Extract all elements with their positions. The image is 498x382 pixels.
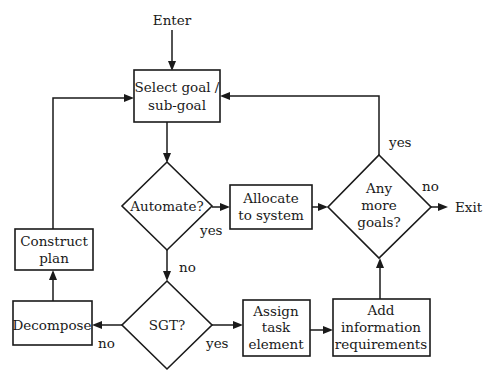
edge-label-goals-no: no — [422, 178, 439, 194]
node-label: Automate? — [129, 198, 204, 214]
node-label: to system — [238, 207, 304, 223]
node-label: Any — [365, 180, 392, 196]
edge-construct-select — [53, 98, 127, 229]
node-label: plan — [39, 250, 69, 266]
node-select-goal: Select goal / sub-goal — [134, 70, 220, 122]
arrowhead — [438, 203, 448, 211]
terminal-exit: Exit — [455, 199, 483, 215]
node-label: goals? — [357, 214, 400, 230]
edge-label-sgt-no: no — [98, 335, 115, 351]
node-label: Assign — [252, 303, 299, 319]
node-allocate: Allocate to system — [230, 185, 312, 229]
arrowhead — [92, 321, 102, 329]
edge-goals-select — [227, 96, 379, 155]
node-construct-plan: Construct plan — [15, 229, 93, 270]
node-automate-decision: Automate? — [122, 162, 212, 250]
node-label: Construct — [20, 233, 88, 249]
edge-label-automate-no: no — [179, 259, 196, 275]
node-label: Allocate — [242, 190, 299, 206]
arrowhead — [220, 203, 230, 211]
node-label: more — [361, 197, 396, 213]
node-decompose: Decompose — [13, 301, 93, 345]
node-label: sub-goal — [148, 97, 206, 113]
edge-label-sgt-yes: yes — [205, 335, 229, 351]
node-label: task — [262, 319, 291, 335]
edge-label-automate-yes: yes — [199, 222, 223, 238]
arrowhead — [376, 258, 384, 268]
edge-label-goals-yes: yes — [388, 134, 412, 150]
arrowhead — [233, 321, 243, 329]
node-label: Decompose — [13, 317, 92, 333]
node-sgt-decision: SGT? — [122, 281, 212, 369]
node-label: Add — [366, 302, 394, 318]
node-add-info: Add information requirements — [333, 299, 430, 356]
arrowhead — [49, 270, 57, 280]
arrowhead — [323, 326, 333, 334]
node-label: SGT? — [149, 317, 185, 333]
flowchart: Select goal / sub-goal Automate? Allocat… — [0, 0, 498, 382]
node-any-more-goals-decision: Any more goals? — [328, 155, 431, 258]
node-assign-task: Assign task element — [243, 300, 310, 356]
arrowhead — [124, 94, 134, 102]
node-label: element — [248, 336, 304, 352]
arrowhead — [220, 92, 230, 100]
terminal-enter: Enter — [153, 12, 192, 28]
arrowhead — [163, 271, 171, 281]
arrowhead — [318, 203, 328, 211]
node-label: Select goal / — [135, 79, 220, 95]
node-label: information — [341, 319, 421, 335]
node-label: requirements — [335, 336, 427, 352]
